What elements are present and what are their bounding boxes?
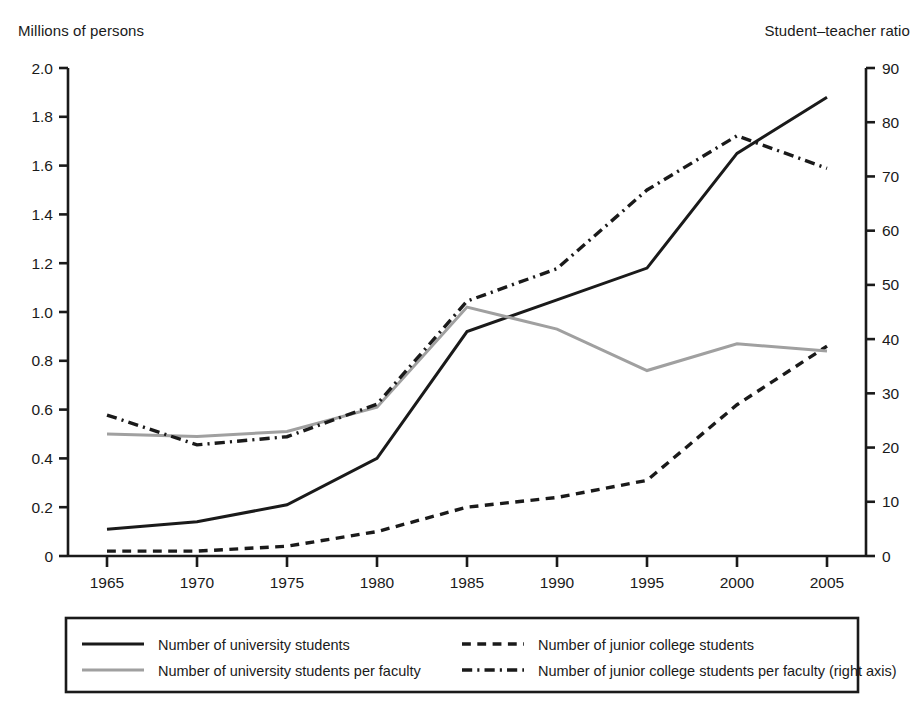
legend-label: Number of junior college students [538,637,754,653]
plot-area: 00.20.40.60.81.01.21.41.61.82.0010203040… [0,0,924,716]
series-line [107,346,827,551]
left-axis-tick-label: 0.2 [31,499,53,516]
x-axis-tick-label: 1985 [450,574,484,591]
left-axis-tick-label: 1.8 [31,108,53,125]
left-axis-tick-label: 1.6 [31,157,53,174]
legend-label: Number of university students [158,637,350,653]
left-axis-tick-label: 0.8 [31,352,53,369]
right-axis-tick-label: 90 [882,60,900,77]
chart-container: Millions of persons Student–teacher rati… [0,0,924,716]
tick-labels-layer: 00.20.40.60.81.01.21.41.61.82.0010203040… [31,60,899,592]
right-axis-tick-label: 10 [882,493,900,510]
x-axis-tick-label: 2005 [810,574,844,591]
x-axis-tick-label: 1990 [540,574,575,591]
x-axis-tick-label: 2000 [720,574,755,591]
left-axis-tick-label: 1.0 [31,304,53,321]
series-line [107,97,827,529]
legend-label: Number of university students per facult… [158,663,421,679]
right-axis-tick-label: 0 [882,548,891,565]
right-axis-tick-label: 20 [882,439,900,456]
right-axis-tick-label: 40 [882,331,900,348]
legend-border [66,618,858,692]
left-axis-tick-label: 0.6 [31,401,53,418]
right-axis-tick-label: 70 [882,168,900,185]
series-line [107,307,827,436]
right-axis-tick-label: 80 [882,114,900,131]
x-axis-tick-label: 1970 [180,574,215,591]
series-layer [107,97,827,551]
x-axis-tick-label: 1980 [360,574,395,591]
x-axis-tick-label: 1975 [270,574,304,591]
x-axis-tick-label: 1995 [630,574,664,591]
left-axis-tick-label: 2.0 [31,60,53,77]
legend-label: Number of junior college students per fa… [538,663,897,679]
right-axis-tick-label: 60 [882,222,900,239]
legend-box: Number of university studentsNumber of u… [66,618,897,692]
x-axis-tick-label: 1965 [90,574,124,591]
series-line [107,136,827,445]
left-axis-title: Millions of persons [18,22,144,39]
left-axis-tick-label: 1.2 [31,255,53,272]
right-axis-tick-label: 50 [882,276,900,293]
right-axis-title: Student–teacher ratio [764,22,910,39]
left-axis-tick-label: 0.4 [31,450,53,467]
right-axis-tick-label: 30 [882,385,900,402]
left-axis-tick-label: 0 [44,548,53,565]
left-axis-tick-label: 1.4 [31,206,53,223]
